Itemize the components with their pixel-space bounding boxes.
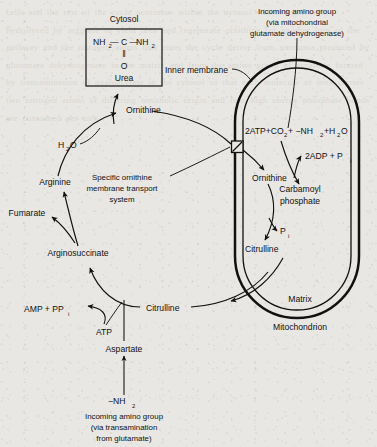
carbamoyl-phosphate-line-2: phosphate [280, 196, 320, 206]
carbamoyl-phosphate-label-group: Carbamoyl phosphate [279, 184, 321, 206]
equation-part-1-subscript: 2 [284, 132, 287, 138]
urea-double-bond: ‖ [122, 49, 126, 59]
equation-part-3-subscript: 2 [337, 132, 340, 138]
equation-part-2-subscript: 2 [320, 132, 323, 138]
citrulline-cytosol-label: Citrulline [146, 303, 180, 313]
urea-chemical-structure: NH 2 — C — NH 2 ‖ O Urea [93, 37, 155, 83]
urea-nh2-right: NH [136, 37, 148, 47]
arc-citrulline-to-arginosuccinate [90, 268, 140, 307]
adp-pi-subscript: i [350, 158, 351, 164]
leader-transport-system [170, 147, 230, 176]
fumarate-label: Fumarate [9, 208, 46, 218]
transport-line-3: system [110, 195, 135, 204]
urea-central-carbon-bond: — C — [110, 37, 139, 47]
arc-ornithine-to-pore [152, 111, 231, 144]
transport-line-1: Specific ornithine [92, 173, 153, 182]
transport-system-annotation: Specific ornithine membrane transport sy… [86, 173, 158, 204]
urea-name-label: Urea [115, 73, 134, 83]
urea-cycle-illustration: Cytosol NH 2 — C — NH 2 ‖ O Urea [0, 0, 377, 447]
amino-group-bottom-symbol: −NH 2 [108, 396, 135, 409]
urea-nh2-right-subscript: 2 [152, 43, 155, 49]
arrow-adp-pi-release [294, 156, 301, 178]
amino-bottom-line-1: Incoming amino group [85, 412, 164, 421]
amp-ppi-label-group: AMP + PP i [24, 304, 69, 317]
adp-pi-label: 2ADP + P [305, 151, 343, 161]
water-label-oxygen: O [70, 140, 77, 150]
water-label-subscript: 2 [66, 146, 69, 152]
figure-canvas: cells and the rest of the cycle continue… [0, 0, 377, 447]
transport-line-2: membrane transport [86, 184, 158, 193]
water-label: H [58, 140, 64, 150]
matrix-pi-subscript: i [288, 233, 289, 239]
amp-ppi-label: AMP + PP [24, 304, 64, 314]
amp-ppi-subscript: i [68, 311, 69, 317]
arginine-label: Arginine [39, 177, 71, 187]
urea-oxygen-atom: O [121, 61, 128, 71]
carbamoyl-phosphate-line-1: Carbamoyl [279, 184, 321, 194]
amino-bottom-line-3: from glutamate) [96, 434, 152, 443]
ornithine-transport-pore-icon [232, 141, 244, 153]
incoming-amino-top-annotation: Incoming amino group (via mitochondrial … [250, 7, 344, 38]
leader-water-to-arginase [80, 128, 100, 144]
citrulline-matrix-label: Citrulline [245, 244, 279, 254]
leader-inner-membrane [232, 69, 252, 82]
matrix-pi-label-group: P i [280, 226, 289, 239]
equation-part-4: O [341, 126, 348, 136]
water-label-group: H 2 O [58, 140, 77, 152]
amino-bottom-line-2: (via transamination [91, 423, 158, 432]
equation-part-1: 2ATP+CO [245, 126, 284, 136]
arc-arginine-to-ornithine [58, 113, 116, 176]
amino-group-subscript: 2 [132, 403, 135, 409]
arrow-to-urea [113, 94, 118, 124]
cps-reaction-equation: 2ATP+CO 2 + −NH 2 +H 2 O [245, 126, 348, 138]
leader-incoming-amino-top [288, 38, 297, 128]
atp-label: ATP [96, 327, 112, 337]
equation-part-3: +H [324, 126, 335, 136]
ornithine-cytosol-label: Ornithine [126, 105, 161, 115]
inner-membrane-label: Inner membrane [165, 65, 228, 75]
amino-top-line-1: Incoming amino group [258, 7, 337, 16]
arginosuccinate-label: Arginosuccinate [47, 248, 108, 258]
arc-atp-to-amp-ppi [88, 306, 105, 324]
mitochondrion-label: Mitochondrion [273, 322, 327, 332]
equation-part-2: + −NH [288, 126, 313, 136]
leader-atp-input [106, 302, 122, 325]
ornithine-matrix-label: Ornithine [252, 173, 287, 183]
amino-top-line-2: (via mitochondrial [266, 18, 328, 27]
amino-top-line-3: glutamate dehydrogenase) [250, 29, 344, 38]
adp-pi-label-group: 2ADP + P i [305, 151, 351, 164]
aspartate-label: Aspartate [106, 344, 143, 354]
arrow-pore-to-matrix-ornithine [243, 150, 264, 170]
cytosol-label: Cytosol [110, 14, 139, 24]
matrix-pi-label: P [280, 226, 286, 236]
matrix-label: Matrix [288, 294, 312, 304]
incoming-amino-bottom-annotation: Incoming amino group (via transamination… [85, 412, 164, 443]
arrow-to-matrix-citrulline [265, 184, 274, 240]
amino-group-label: −NH [108, 396, 125, 406]
urea-nh2-left: NH [93, 37, 105, 47]
